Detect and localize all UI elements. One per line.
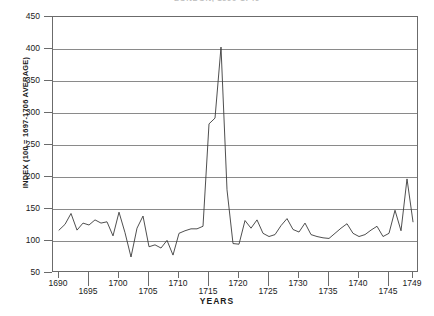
x-tick-label-1715: 1715 bbox=[191, 287, 225, 296]
y-tick-100 bbox=[44, 240, 52, 241]
y-tick-400 bbox=[44, 48, 52, 49]
y-tick-label-200: 200 bbox=[0, 172, 40, 181]
y-tick-label-150: 150 bbox=[0, 204, 40, 213]
series-line-index bbox=[53, 17, 419, 273]
y-tick-250 bbox=[44, 144, 52, 145]
x-tick-label-1695: 1695 bbox=[71, 287, 105, 296]
y-tick-50 bbox=[44, 272, 52, 273]
y-tick-450 bbox=[44, 16, 52, 17]
x-axis-title: YEARS bbox=[0, 296, 434, 306]
y-tick-300 bbox=[44, 112, 52, 113]
x-tick-label-1700: 1700 bbox=[101, 279, 135, 288]
y-tick-350 bbox=[44, 80, 52, 81]
data-line-container bbox=[53, 17, 417, 271]
y-tick-label-400: 400 bbox=[0, 44, 40, 53]
y-tick-label-350: 350 bbox=[0, 76, 40, 85]
x-tick-label-1690: 1690 bbox=[41, 279, 75, 288]
y-tick-150 bbox=[44, 208, 52, 209]
x-tick-label-1735: 1735 bbox=[311, 287, 345, 296]
y-axis-title: INDEX (100 = 1697-1706 AVERAGE) bbox=[21, 28, 30, 218]
y-tick-label-300: 300 bbox=[0, 108, 40, 117]
series-polyline bbox=[59, 47, 413, 257]
x-tick-label-1740: 1740 bbox=[341, 279, 375, 288]
chart-title: LONDON, 1690-1749 bbox=[0, 0, 434, 2]
x-tick-label-1705: 1705 bbox=[131, 287, 165, 296]
x-tick-1745 bbox=[388, 272, 389, 286]
y-tick-label-450: 450 bbox=[0, 12, 40, 21]
x-tick-label-1725: 1725 bbox=[251, 287, 285, 296]
x-tick-label-1745: 1745 bbox=[371, 287, 405, 296]
x-tick-1705 bbox=[148, 272, 149, 286]
x-tick-1695 bbox=[88, 272, 89, 286]
plot-area bbox=[52, 16, 418, 272]
y-tick-label-100: 100 bbox=[0, 236, 40, 245]
y-tick-label-250: 250 bbox=[0, 140, 40, 149]
x-tick-label-1749: 1749 bbox=[395, 279, 429, 288]
x-tick-1735 bbox=[328, 272, 329, 286]
x-tick-label-1720: 1720 bbox=[221, 279, 255, 288]
y-tick-label-50: 50 bbox=[0, 268, 40, 277]
x-tick-label-1710: 1710 bbox=[161, 279, 195, 288]
x-tick-label-1730: 1730 bbox=[281, 279, 315, 288]
chart-root: LONDON, 1690-1749 INDEX (100 = 1697-1706… bbox=[0, 0, 434, 316]
y-tick-200 bbox=[44, 176, 52, 177]
x-tick-1715 bbox=[208, 272, 209, 286]
x-tick-1725 bbox=[268, 272, 269, 286]
